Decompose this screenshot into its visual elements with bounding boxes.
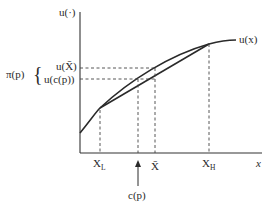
u-xbar-label: u(X̄) (56, 60, 77, 73)
diagram-canvas: u(·) x u(x) u(X̄) u(c(p)) π(p) { XL X̄ X… (0, 0, 277, 206)
x-axis-label: x (255, 157, 261, 169)
bracket-icon: { (33, 63, 43, 85)
xl-label: XL (93, 157, 106, 172)
u-cp-label: u(c(p)) (44, 73, 75, 86)
risk-premium-label: π(p) (6, 68, 25, 81)
utility-curve (80, 40, 236, 133)
xbar-label: X̄ (151, 160, 159, 172)
y-axis-label: u(·) (59, 6, 76, 19)
expected-utility-chord (100, 44, 209, 108)
cp-label: c(p) (128, 189, 146, 202)
curve-label: u(x) (239, 33, 258, 46)
xh-label: XH (202, 157, 216, 172)
arrow-up-icon (135, 160, 141, 167)
utility-diagram: u(·) x u(x) u(X̄) u(c(p)) π(p) { XL X̄ X… (0, 0, 277, 206)
